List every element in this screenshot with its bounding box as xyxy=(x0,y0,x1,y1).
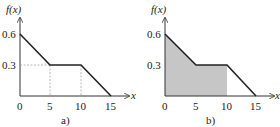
x-axis-label: x xyxy=(274,89,280,101)
x-axis-label: x xyxy=(130,89,136,101)
xtick-10: 10 xyxy=(75,100,87,112)
ytick-0.6: 0.6 xyxy=(147,28,161,40)
xtick-5: 5 xyxy=(193,100,199,112)
y-axis-label: f(x) xyxy=(6,3,22,16)
xtick-5: 5 xyxy=(47,100,53,112)
figure: f(x) x 0.6 0.3 0 5 10 15 a) f(x) x 0.6 0… xyxy=(0,0,280,127)
caption-b: b) xyxy=(206,114,216,127)
xtick-0: 0 xyxy=(162,100,168,112)
xtick-15: 15 xyxy=(250,100,262,112)
ytick-0.3: 0.3 xyxy=(147,59,161,71)
xtick-0: 0 xyxy=(17,100,23,112)
y-axis-label: f(x) xyxy=(151,3,167,16)
panel-a: f(x) x 0.6 0.3 0 5 10 15 a) xyxy=(2,3,136,127)
ytick-0.6: 0.6 xyxy=(2,28,16,40)
ytick-0.3: 0.3 xyxy=(2,59,16,71)
pdf-line xyxy=(20,34,111,96)
panel-b: f(x) x 0.6 0.3 0 5 10 15 b) xyxy=(147,3,280,127)
xtick-15: 15 xyxy=(105,100,117,112)
xtick-10: 10 xyxy=(221,100,233,112)
caption-a: a) xyxy=(61,114,70,127)
